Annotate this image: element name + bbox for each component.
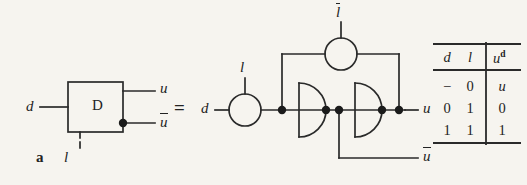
- truth-table-header-d: d: [439, 50, 455, 65]
- circuit-node-dot-2: [322, 106, 330, 114]
- d-block-ubar-junction-dot: [119, 119, 127, 127]
- truth-table-r2c1: 1: [462, 123, 478, 138]
- d-block-body-label: D: [92, 98, 103, 113]
- circuit-ubar-output-label: u: [423, 147, 431, 164]
- circuit-node-dot-4: [378, 106, 386, 114]
- d-block-output-ubar-label: u: [160, 113, 168, 130]
- equals-sign: =: [174, 98, 185, 117]
- truth-table-r2c0: 1: [439, 123, 455, 138]
- truth-table-r2c2: 1: [494, 123, 510, 138]
- d-block-output-u-label: u: [160, 81, 168, 96]
- circuit-node-dot-3: [335, 106, 343, 114]
- truth-table-r1c0: 0: [439, 101, 455, 116]
- circuit-node-dot-5: [395, 106, 403, 114]
- truth-table-r1c2: 0: [494, 101, 510, 116]
- truth-table-header-ud: ud: [493, 50, 515, 65]
- circuit-u-output-label: u: [423, 101, 431, 116]
- circuit-node-dot-1: [278, 106, 286, 114]
- d-block-output-ubar-text: u: [160, 113, 168, 130]
- circuit-pass-gate-circle: [229, 94, 261, 126]
- truth-table-header-l: l: [462, 50, 478, 65]
- panel-label-a: a: [36, 150, 44, 165]
- truth-table-header-superscript: d: [500, 49, 505, 59]
- d-block-clock-label: l: [64, 150, 68, 165]
- circuit-lbar-circle: [325, 38, 357, 70]
- truth-table-r0c1: 0: [462, 79, 478, 94]
- truth-table-r0c0: −: [439, 79, 455, 94]
- circuit-ubar-output-text: u: [423, 147, 431, 164]
- circuit-clock-label: l: [240, 60, 244, 75]
- figure-root: d D u u l a = d l l u u d l ud − 0 u 0 1…: [0, 0, 527, 185]
- circuit-clock-bar-label: l: [336, 3, 340, 20]
- circuit-d-input-label: d: [201, 101, 209, 116]
- truth-table-r0c2: u: [494, 79, 510, 94]
- truth-table-r1c1: 1: [462, 101, 478, 116]
- circuit-clock-bar-text: l: [336, 3, 340, 20]
- d-block-input-label: d: [26, 99, 34, 114]
